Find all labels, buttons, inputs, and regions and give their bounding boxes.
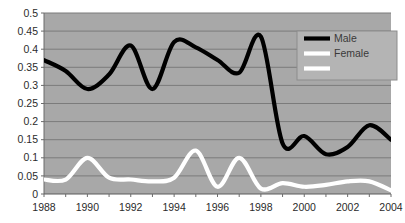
y-tick-label: 0.3 — [23, 79, 38, 91]
y-tick-label: 0 — [32, 188, 38, 200]
x-tick-label: 1996 — [206, 201, 230, 213]
x-tick-label: 1990 — [76, 201, 100, 213]
x-tick-label: 1998 — [249, 201, 273, 213]
line-chart: 00.050.10.150.20.250.30.350.40.450.5 198… — [0, 0, 405, 223]
x-tick-label: 1994 — [162, 201, 186, 213]
y-tick-label: 0.4 — [23, 43, 38, 55]
x-tick-label: 1988 — [32, 201, 56, 213]
y-tick-label: 0.1 — [23, 151, 38, 163]
y-tick-label: 0.15 — [18, 133, 39, 145]
x-tick-label: 2002 — [336, 201, 360, 213]
x-tick-label: 1992 — [119, 201, 143, 213]
chart-legend: MaleFemale — [297, 31, 397, 80]
y-tick-label: 0.35 — [18, 61, 39, 73]
y-tick-label: 0.5 — [23, 7, 38, 19]
y-tick-label: 0.05 — [18, 170, 39, 182]
legend-label-male: Male — [334, 32, 357, 44]
y-axis-ticks: 00.050.10.150.20.250.30.350.40.450.5 — [18, 7, 44, 200]
y-tick-label: 0.45 — [18, 25, 39, 37]
x-tick-label: 2004 — [379, 201, 403, 213]
chart-canvas: 00.050.10.150.20.250.30.350.40.450.5 198… — [0, 0, 405, 223]
legend-label-female: Female — [334, 47, 369, 59]
y-tick-label: 0.25 — [18, 97, 39, 109]
y-tick-label: 0.2 — [23, 115, 38, 127]
x-axis-ticks: 198819901992199419961998200020022004 — [32, 194, 403, 213]
x-tick-label: 2000 — [293, 201, 317, 213]
